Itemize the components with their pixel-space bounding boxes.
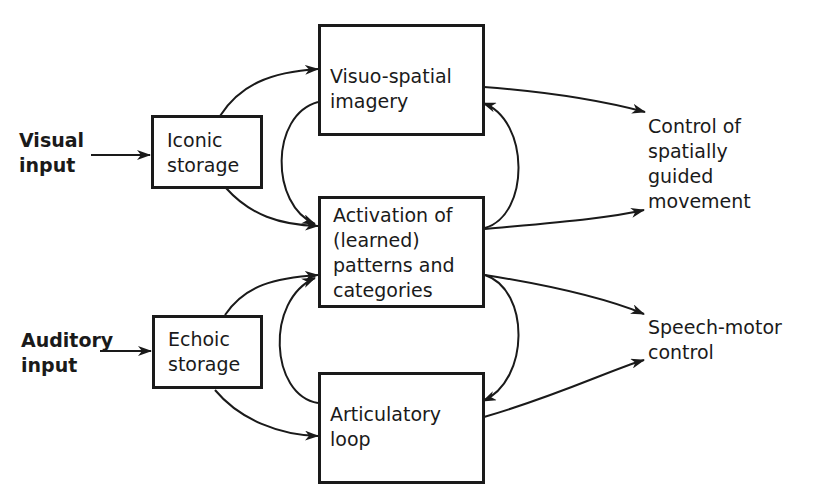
iconic-storage-box: Iconic storage [151,115,263,189]
speech-motor-control-label: Speech-motor control [648,315,782,365]
activation-label: Activation of (learned) patterns and cat… [333,203,455,303]
articulatory-loop-label: Articulatory loop [330,402,441,452]
visuo-spatial-imagery-label: Visuo-spatial imagery [330,64,452,114]
iconic-to-activation-arrow [226,188,318,226]
iconic-storage-label: Iconic storage [167,128,239,178]
echoic-to-activation-arrow [225,275,318,315]
echoic-storage-label: Echoic storage [168,327,240,377]
visual-input-label: Visual input [19,128,84,178]
spatial-control-label: Control of spatially guided movement [648,114,751,214]
visuo-to-spatial-control-arrow [484,87,645,112]
visuo-spatial-imagery-box: Visuo-spatial imagery [318,24,485,136]
activation-to-spatial-control-arrow [485,210,644,229]
echoic-storage-box: Echoic storage [152,315,263,389]
articulatory-loop-box: Articulatory loop [318,372,485,484]
articulatory-to-activation-arrow [280,278,318,403]
activation-box: Activation of (learned) patterns and cat… [318,196,485,308]
activation-to-articulatory-arrow [483,275,519,401]
visuo-to-activation-arrow [282,102,318,224]
auditory-input-label: Auditory input [21,328,113,378]
activation-to-visuo-arrow [483,103,519,228]
articulatory-to-speech-arrow [484,360,644,417]
